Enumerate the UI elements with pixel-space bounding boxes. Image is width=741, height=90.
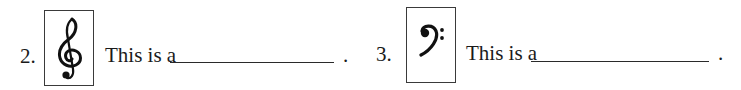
answer-blank[interactable]: [531, 61, 709, 62]
treble-clef-icon: [53, 17, 87, 81]
treble-clef-box: [44, 10, 94, 86]
answer-blank[interactable]: [170, 62, 334, 63]
question-prompt: This is a: [105, 45, 176, 66]
question-number: 3.: [376, 44, 392, 65]
bass-clef-icon: [419, 24, 447, 58]
question-prompt: This is a: [466, 43, 537, 64]
end-period: .: [718, 43, 723, 64]
bass-clef-box: [406, 7, 456, 83]
end-period: .: [343, 45, 348, 66]
question-number: 2.: [20, 46, 36, 67]
